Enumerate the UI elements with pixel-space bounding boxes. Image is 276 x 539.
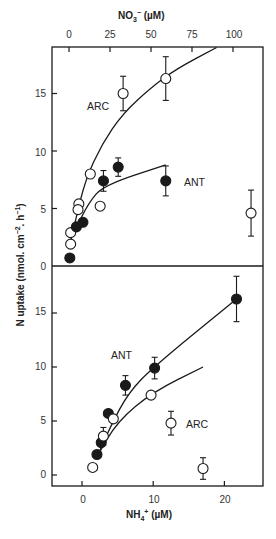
open-circle-marker-arc [73, 205, 83, 215]
bottom-ant-label: ANT [111, 349, 132, 361]
top-y-tick-0: 0 [26, 261, 46, 272]
open-circle-marker-arc [88, 462, 98, 472]
open-circle-marker-arc [108, 414, 118, 424]
top-x-tick-100: 100 [226, 29, 243, 40]
top-x-axis-title: NO3− (µM) [118, 9, 165, 23]
top-y-tick-5: 5 [26, 204, 46, 215]
bottom-x-tick-10: 10 [148, 494, 159, 505]
open-circle-marker-arc [198, 464, 208, 474]
open-circle-marker-arc [66, 239, 76, 249]
top-x-tick-50: 50 [145, 29, 156, 40]
top-y-tick-15: 15 [26, 88, 46, 99]
ant-fit-curve [96, 299, 236, 459]
ylabel-main: N uptake (nmol. cm [15, 234, 26, 326]
bottom-y-tick-0: 0 [26, 469, 46, 480]
top-axis-title-text: NO [118, 10, 133, 21]
filled-circle-marker-ant [98, 176, 108, 186]
filled-circle-marker-ant [120, 380, 130, 390]
ylabel-sup2: −1 [14, 207, 21, 215]
top-arc-label: ARC [87, 100, 109, 112]
y-axis-title: N uptake (nmol. cm−2. h−1) [14, 203, 26, 326]
bottom-arc-label: ARC [186, 418, 208, 430]
filled-circle-marker-ant [161, 176, 171, 186]
top-axis-title-unit: (µM) [141, 10, 165, 21]
filled-circle-marker-ant [150, 363, 160, 373]
ylabel-sup1: −2 [14, 226, 21, 234]
plot-frame [52, 47, 263, 486]
arc-fit-curve [69, 48, 217, 249]
open-circle-marker-arc [161, 74, 171, 84]
open-circle-marker-arc [98, 431, 108, 441]
top-y-tick-10: 10 [26, 147, 46, 158]
bottom-panel-ammonium [52, 276, 242, 486]
bottom-x-tick-0: 0 [80, 494, 86, 505]
filled-circle-marker-ant [78, 217, 88, 227]
bottom-x-tick-20: 20 [219, 494, 230, 505]
open-circle-marker-arc [95, 201, 105, 211]
open-circle-marker-arc [246, 208, 256, 218]
top-x-tick-25: 25 [104, 29, 115, 40]
top-axis-title-sub: 3 [133, 16, 137, 23]
top-ant-label: ANT [184, 176, 205, 188]
bottom-axis-title-unit: (µM) [148, 509, 172, 520]
open-circle-marker-arc [166, 418, 176, 428]
filled-circle-marker-ant [65, 253, 75, 263]
bottom-x-axis-title: NH4+ (µM) [126, 508, 172, 522]
filled-circle-marker-ant [113, 162, 123, 172]
open-circle-marker-arc [146, 390, 156, 400]
top-x-tick-75: 75 [186, 29, 197, 40]
bottom-y-tick-5: 5 [26, 415, 46, 426]
bottom-axis-title-text: NH [126, 509, 140, 520]
ylabel-mid: . h [15, 215, 26, 227]
filled-circle-marker-ant [92, 449, 102, 459]
ylabel-end: ) [15, 203, 26, 206]
bottom-y-tick-15: 15 [26, 306, 46, 317]
bottom-axis-title-sub: 4 [140, 515, 144, 522]
open-circle-marker-arc [118, 89, 128, 99]
top-panel-nitrate [52, 47, 256, 263]
filled-circle-marker-ant [232, 294, 242, 304]
bottom-y-tick-10: 10 [26, 361, 46, 372]
open-circle-marker-arc [85, 169, 95, 179]
top-x-tick-0: 0 [66, 29, 72, 40]
